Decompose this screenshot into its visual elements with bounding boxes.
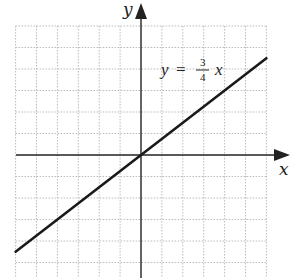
equation-lhs: y bbox=[159, 60, 169, 79]
y-axis-arrow-icon bbox=[135, 3, 147, 19]
y-axis-label: y bbox=[122, 0, 133, 19]
equation-variable: x bbox=[214, 60, 223, 79]
equation-numerator: 3 bbox=[200, 56, 206, 68]
x-axis-label: x bbox=[279, 159, 289, 179]
y-axis bbox=[135, 3, 147, 278]
line-graph: y x y = 3 4 x bbox=[0, 0, 291, 278]
equation-denominator: 4 bbox=[200, 71, 206, 83]
equation-equals: = bbox=[176, 60, 186, 79]
